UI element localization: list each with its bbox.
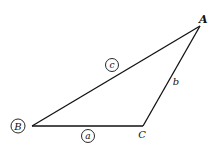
side-label-a: a [85,131,90,141]
vertex-label-a: A [198,13,208,26]
side-b-line [143,26,200,126]
side-label-c: c [109,60,114,70]
side-label-b: b [173,76,179,87]
vertex-label-c: C [138,129,146,140]
triangle-diagram: A B C c b a [0,0,219,150]
vertex-label-b: B [13,121,21,132]
